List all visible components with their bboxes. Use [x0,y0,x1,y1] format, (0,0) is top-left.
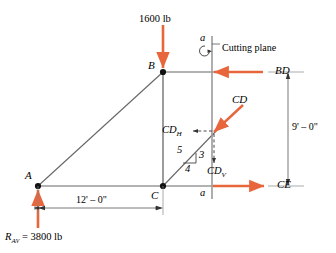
slope-label-horizontal: 4 [185,164,190,175]
joint-B [160,69,166,75]
force-label-CDV-main: CD [207,165,222,176]
cutting-plane-label: Cutting plane [222,43,276,53]
force-label-CDH-sub: H [177,130,182,138]
force-label-CDH-main: CD [162,124,177,135]
force-label-CD: CD [232,94,247,105]
truss-diagram-figure: 1600 lb A B C a a Cutting plane BD CD CE… [0,0,336,253]
slope-label-hypotenuse: 5 [177,145,182,156]
force-label-CDV: CDV [207,166,226,179]
reaction-label-V: V [16,238,20,244]
section-mark-label-top: a [200,33,205,44]
member-AB [38,72,163,186]
section-mark-label-bottom: a [200,188,205,199]
force-arrow-CD [214,105,243,132]
section-mark-arrow-top [200,46,212,56]
joint-label-B: B [148,60,155,71]
force-label-CDH: CDH [162,125,182,138]
force-label-CDV-sub: V [222,171,226,179]
joint-label-C: C [151,190,158,201]
slope-label-vertical: 3 [199,150,204,161]
force-label-BD: BD [275,65,290,76]
joint-label-A: A [25,170,32,181]
dimension-label-height: 9' – 0" [292,122,318,132]
dimension-label-span: 12' – 0" [76,195,107,205]
load-label-1600lb: 1600 lb [139,14,171,25]
reaction-label-value: = 3800 lb [22,231,62,242]
force-label-CE: CE [277,179,291,190]
reaction-label-RAv: RAV = 3800 lb [5,232,62,245]
